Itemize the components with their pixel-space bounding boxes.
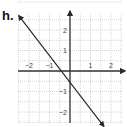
svg-text:1: 1	[89, 62, 93, 69]
svg-text:−1: −1	[59, 88, 67, 95]
svg-text:2: 2	[109, 62, 113, 69]
svg-text:2: 2	[63, 27, 67, 34]
coordinate-plane: −2−11221−1−2	[0, 0, 127, 127]
svg-text:−2: −2	[25, 62, 33, 69]
svg-text:−2: −2	[59, 109, 67, 116]
svg-text:−1: −1	[46, 62, 54, 69]
svg-text:1: 1	[63, 47, 67, 54]
